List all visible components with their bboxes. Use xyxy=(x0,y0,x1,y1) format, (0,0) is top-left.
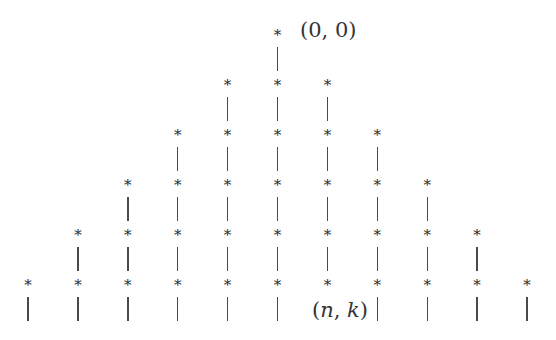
lattice-edge xyxy=(327,247,328,271)
lattice-edge xyxy=(177,297,178,321)
lattice-edge xyxy=(277,47,278,71)
lattice-edge xyxy=(277,297,278,321)
lattice-node: * xyxy=(270,127,286,143)
lattice-edge xyxy=(377,297,378,321)
lattice-edge xyxy=(177,147,178,171)
lattice-node: * xyxy=(270,177,286,193)
lattice-node: * xyxy=(270,277,286,293)
lattice-node: * xyxy=(319,77,335,93)
lattice-edge xyxy=(77,297,78,321)
lattice-edge xyxy=(177,247,178,271)
nk-label-n: n xyxy=(320,298,334,322)
lattice-node: * xyxy=(270,77,286,93)
lattice-edge xyxy=(277,97,278,121)
lattice-edge xyxy=(127,247,128,271)
lattice-node: * xyxy=(469,227,485,243)
lattice-node: * xyxy=(369,277,385,293)
lattice-edge xyxy=(77,247,78,271)
lattice-node: * xyxy=(220,177,236,193)
lattice-node: * xyxy=(369,127,385,143)
lattice-edge xyxy=(277,247,278,271)
origin-label-a: 0 xyxy=(308,18,321,42)
lattice-edge xyxy=(227,97,228,121)
lattice-node: * xyxy=(220,77,236,93)
origin-label-close: ) xyxy=(348,18,356,42)
lattice-edge xyxy=(427,247,428,271)
lattice-edge xyxy=(227,147,228,171)
lattice-node: * xyxy=(369,177,385,193)
lattice-edge xyxy=(427,297,428,321)
lattice-edge xyxy=(227,297,228,321)
lattice-node: * xyxy=(120,177,136,193)
lattice-node: * xyxy=(419,227,435,243)
origin-label-sep: , xyxy=(322,18,335,42)
lattice-node: * xyxy=(220,127,236,143)
lattice-node: * xyxy=(270,227,286,243)
lattice-node: * xyxy=(270,27,286,43)
nk-label: (n, k) xyxy=(312,298,368,322)
lattice-node: * xyxy=(319,177,335,193)
lattice-node: * xyxy=(220,227,236,243)
lattice-node: * xyxy=(20,277,36,293)
lattice-node: * xyxy=(469,277,485,293)
lattice-node: * xyxy=(319,277,335,293)
lattice-edge xyxy=(227,197,228,221)
lattice-node: * xyxy=(120,277,136,293)
nk-label-close: ) xyxy=(360,298,368,322)
lattice-edge xyxy=(377,197,378,221)
lattice-node: * xyxy=(70,227,86,243)
lattice-edge xyxy=(377,247,378,271)
origin-label-open: ( xyxy=(300,18,308,42)
lattice-edge xyxy=(27,297,28,321)
lattice-node: * xyxy=(170,177,186,193)
lattice-edge xyxy=(427,197,428,221)
lattice-edge xyxy=(277,197,278,221)
lattice-edge xyxy=(377,147,378,171)
lattice-node: * xyxy=(170,277,186,293)
lattice-edge xyxy=(327,197,328,221)
lattice-edge xyxy=(127,197,128,221)
lattice-edge xyxy=(327,97,328,121)
lattice-node: * xyxy=(70,277,86,293)
lattice-edge xyxy=(327,147,328,171)
lattice-edge xyxy=(526,297,527,321)
lattice-node: * xyxy=(419,277,435,293)
lattice-edge xyxy=(476,247,477,271)
lattice-edge xyxy=(127,297,128,321)
lattice-node: * xyxy=(369,227,385,243)
lattice-diagram: ************************************ xyxy=(0,0,556,340)
lattice-node: * xyxy=(120,227,136,243)
origin-label: (0, 0) xyxy=(300,18,357,42)
lattice-node: * xyxy=(170,227,186,243)
origin-label-b: 0 xyxy=(335,18,348,42)
nk-label-sep: , xyxy=(334,298,347,322)
lattice-node: * xyxy=(319,227,335,243)
lattice-edge xyxy=(177,197,178,221)
lattice-node: * xyxy=(419,177,435,193)
lattice-edge xyxy=(227,247,228,271)
lattice-node: * xyxy=(519,277,535,293)
lattice-edge xyxy=(277,147,278,171)
lattice-edge xyxy=(476,297,477,321)
lattice-node: * xyxy=(319,127,335,143)
lattice-node: * xyxy=(220,277,236,293)
nk-label-k: k xyxy=(347,298,360,322)
lattice-node: * xyxy=(170,127,186,143)
nk-label-open: ( xyxy=(312,298,320,322)
